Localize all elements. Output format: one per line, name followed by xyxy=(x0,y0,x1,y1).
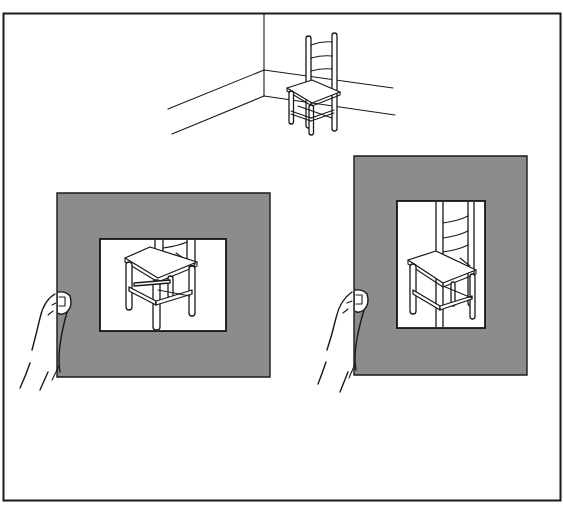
illustration xyxy=(0,0,563,514)
viewfinder-left xyxy=(20,193,270,390)
